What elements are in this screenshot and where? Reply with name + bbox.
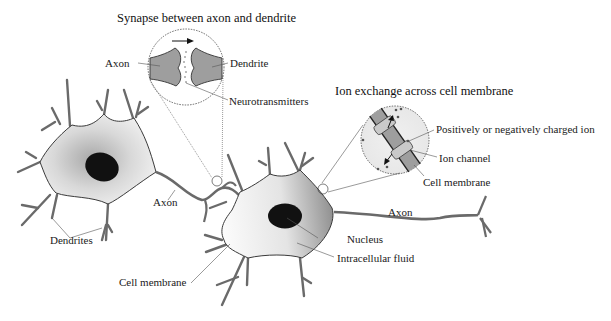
left-axon-label: Axon <box>153 197 177 208</box>
nucleus-label: Nucleus <box>347 234 383 245</box>
neurotransmitters-label: Neurotransmitters <box>229 96 308 107</box>
ion-exchange-inset <box>318 106 437 194</box>
synapse-dendrite-label: Dendrite <box>230 58 268 69</box>
ion-channel-label: Ion channel <box>439 153 491 164</box>
ion-exchange-title: Ion exchange across cell membrane <box>335 85 513 98</box>
dendrites-label: Dendrites <box>50 235 93 246</box>
neuron-diagram: Synapse between axon and dendrite Axon D… <box>0 0 611 321</box>
intracellular-fluid-label: Intracellular fluid <box>337 253 414 264</box>
diagram-artwork <box>0 0 611 321</box>
right-neuron <box>205 143 491 305</box>
synapse-title: Synapse between axon and dendrite <box>117 12 296 25</box>
cell-membrane-label: Cell membrane <box>119 277 187 288</box>
right-axon-label: Axon <box>388 207 412 218</box>
synapse-axon-label: Axon <box>105 58 129 69</box>
left-neuron <box>18 80 240 240</box>
charged-ion-label: Positively or negatively charged ion <box>436 124 595 135</box>
ion-cell-membrane-label: Cell membrane <box>423 177 491 188</box>
